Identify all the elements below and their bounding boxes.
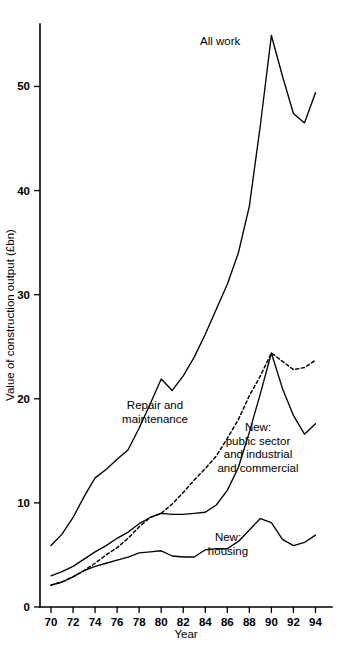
axes-group (40, 24, 332, 607)
series-label-repair-and-maintenance: Repair and maintenance (105, 399, 205, 426)
x-axis-title: Year (174, 628, 197, 640)
x-axis-tick-label: 72 (67, 616, 80, 628)
x-axis-tick-label: 88 (243, 616, 256, 628)
x-axis-tick-label: 80 (155, 616, 168, 628)
series-label-new-public-sector: New: public sector and industrial and co… (198, 421, 318, 475)
x-axis-tick-label: 78 (133, 616, 146, 628)
series-paths-group (51, 35, 315, 585)
x-axis-tick-label: 70 (45, 616, 58, 628)
y-axis-tick-label: 50 (17, 80, 30, 92)
x-axis-tick-label: 84 (199, 616, 212, 628)
y-axis-tick-label: 40 (17, 185, 30, 197)
x-axis-tick-label: 94 (309, 616, 322, 628)
y-axis-title: Value of construction output (£bn) (4, 229, 16, 401)
construction-output-line-chart: 01020304050 70727476788082848688909294 Y… (0, 0, 344, 645)
y-axis-tick-label: 10 (17, 497, 30, 509)
y-axis-tick-label: 30 (17, 289, 30, 301)
x-axis-tick-label: 76 (111, 616, 124, 628)
series-label-all-work: All work (200, 35, 240, 49)
x-axis-tick-label: 90 (265, 616, 278, 628)
y-axis-ticks: 01020304050 (17, 80, 40, 613)
x-axis-tick-label: 74 (89, 616, 102, 628)
x-axis-ticks: 70727476788082848688909294 (45, 607, 323, 628)
chart-canvas: 01020304050 70727476788082848688909294 Y… (0, 0, 344, 645)
series-path (51, 519, 315, 586)
y-axis-tick-label: 20 (17, 393, 30, 405)
x-axis-tick-label: 82 (177, 616, 190, 628)
series-label-new-housing: New: housing (196, 531, 260, 558)
x-axis-tick-label: 86 (221, 616, 234, 628)
x-axis-tick-label: 92 (287, 616, 300, 628)
y-axis-tick-label: 0 (24, 601, 30, 613)
